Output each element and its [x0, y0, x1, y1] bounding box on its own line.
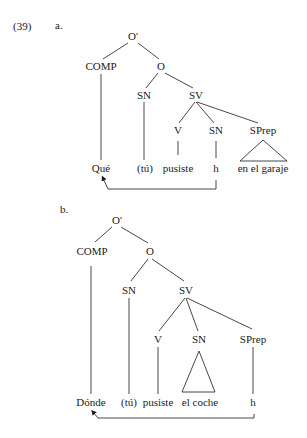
node-sn-object: SN	[209, 124, 223, 136]
syntax-tree-diagram: (39) a. O' COMP O SN SV V SN SPrep Qué (…	[0, 0, 307, 438]
node-o: O	[157, 60, 165, 72]
node-sn-subject: SN	[122, 284, 136, 296]
example-number: (39)	[13, 20, 32, 33]
leaf-en-el-garaje: en el garaje	[238, 162, 289, 174]
tree-b-label: b.	[60, 203, 69, 215]
node-o-prime: O'	[128, 30, 138, 42]
node-v: V	[174, 124, 182, 136]
leaf-tu: (tú)	[137, 162, 153, 175]
sprep-triangle	[240, 140, 287, 161]
node-comp: COMP	[85, 60, 116, 72]
sn-object-triangle	[182, 351, 215, 392]
node-sprep: SPrep	[240, 333, 267, 345]
node-comp: COMP	[76, 245, 107, 257]
leaf-trace-h: h	[250, 396, 256, 408]
node-sv: SV	[179, 284, 193, 296]
leaf-trace-h: h	[213, 162, 219, 174]
movement-arrow-a	[103, 178, 216, 189]
tree-a: a. O' COMP O SN SV V SN SPrep Qué (tú) p…	[55, 19, 288, 189]
leaf-el-coche: el coche	[182, 396, 218, 408]
node-sn-object: SN	[192, 333, 206, 345]
leaf-pusiste: pusiste	[143, 396, 174, 408]
leaf-donde: Dónde	[76, 396, 105, 408]
leaf-pusiste: pusiste	[163, 162, 194, 174]
leaf-que: Qué	[92, 162, 110, 174]
node-o-prime: O'	[112, 214, 122, 226]
movement-arrow-b	[93, 412, 254, 418]
leaf-tu: (tú)	[121, 396, 137, 409]
node-o: O	[146, 245, 154, 257]
node-sn-subject: SN	[137, 89, 151, 101]
tree-a-label: a.	[55, 19, 63, 31]
tree-b: b. O' COMP O SN SV V SN SPrep Dónde (tú)…	[60, 203, 267, 418]
node-v: V	[154, 333, 162, 345]
node-sprep: SPrep	[250, 124, 277, 136]
node-sv: SV	[189, 89, 203, 101]
